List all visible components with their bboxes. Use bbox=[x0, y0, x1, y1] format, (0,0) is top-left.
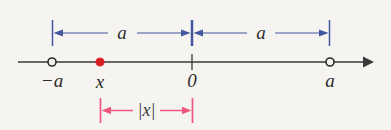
measure-label-left-a-span: a bbox=[117, 23, 127, 42]
axis-label-x: x bbox=[96, 72, 104, 91]
axis-label-a: a bbox=[325, 71, 335, 90]
number-line-graphics bbox=[0, 0, 391, 130]
axis-label-negative-a: −a bbox=[41, 71, 63, 90]
axis-right-arrowhead bbox=[363, 57, 374, 68]
point-marker-a bbox=[326, 58, 334, 66]
axis-label-zero: 0 bbox=[187, 71, 197, 90]
measure-left-arrowhead-right bbox=[181, 30, 191, 37]
measure-absx-arrowhead-right bbox=[182, 107, 192, 115]
axis-group bbox=[18, 57, 374, 68]
measure-label-right-a-span: a bbox=[256, 23, 266, 42]
measure-right-arrowhead-right bbox=[319, 30, 329, 37]
number-line-figure: −a x 0 a a a |x| bbox=[0, 0, 391, 130]
measure-label-abs-x-span: |x| bbox=[138, 101, 156, 119]
point-marker-negative-a bbox=[48, 58, 56, 66]
measure-absx-arrowhead-left bbox=[102, 107, 112, 115]
measure-right-arrowhead-left bbox=[194, 30, 204, 37]
measure-left-arrowhead-left bbox=[54, 30, 64, 37]
point-marker-x bbox=[96, 58, 104, 66]
